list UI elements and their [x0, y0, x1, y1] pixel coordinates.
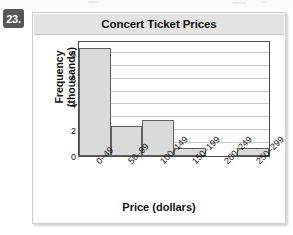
y-axis-tick-labels: 02468	[57, 41, 76, 157]
x-axis-tick-slot: 100–149	[142, 157, 174, 203]
bar-slot	[142, 42, 174, 156]
x-axis-tick-labels: 0–4950–99100–149150–199200–249250–299	[78, 157, 270, 203]
bar-slot	[111, 42, 143, 156]
y-axis-tick-label: 8	[60, 49, 76, 59]
x-axis-tick-slot: 0–49	[78, 157, 110, 203]
x-axis-tick-slot: 50–99	[110, 157, 142, 203]
x-axis-tick-slot: 200–249	[206, 157, 238, 203]
problem-number-badge: 23.	[3, 9, 24, 28]
y-axis-tick-label: 4	[60, 100, 76, 110]
cropped-page-content-strip	[0, 0, 293, 9]
figure-card: Concert Ticket Prices Frequency (thousan…	[32, 12, 286, 224]
y-axis-tick-label: 0	[60, 152, 76, 162]
bar	[79, 48, 111, 156]
bar-slot	[79, 42, 111, 156]
x-axis-title: Price (dollars)	[33, 201, 285, 213]
y-axis-tick-label: 2	[60, 126, 76, 136]
y-axis-tick-label: 6	[60, 75, 76, 85]
x-axis-tick-slot: 150–199	[174, 157, 206, 203]
x-axis-tick-slot: 250–299	[238, 157, 270, 203]
chart-title: Concert Ticket Prices	[101, 18, 216, 30]
